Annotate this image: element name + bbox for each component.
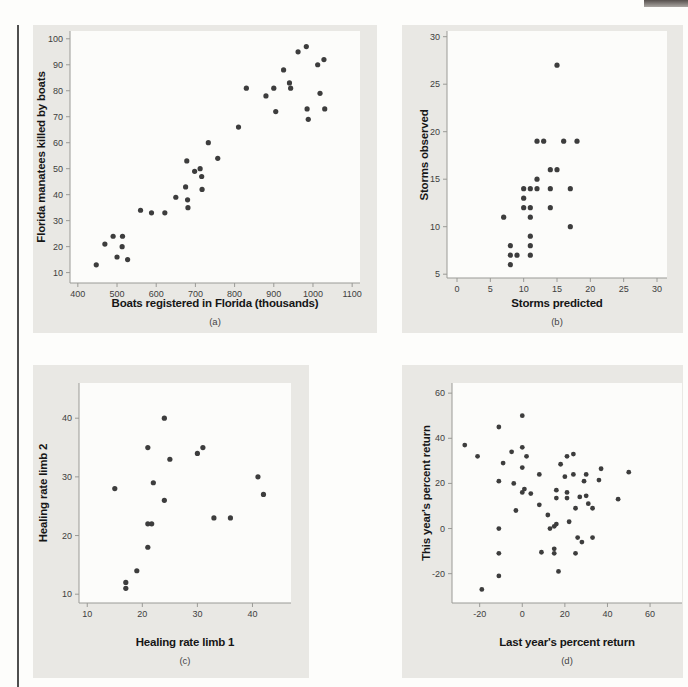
- svg-text:40: 40: [435, 433, 445, 443]
- x-axis-label-d: Last year's percent return: [452, 636, 682, 648]
- x-axis-label-b: Storms predicted: [447, 297, 667, 309]
- svg-text:0: 0: [520, 609, 525, 619]
- svg-text:30: 30: [62, 472, 72, 482]
- scatterplot-panel-a: 4005006007008009001000110010203040506070…: [33, 25, 377, 333]
- svg-text:-20: -20: [473, 609, 486, 619]
- svg-text:20: 20: [62, 531, 72, 541]
- svg-text:10: 10: [53, 268, 63, 278]
- scatter-chart-returns: -200204060-200204060: [402, 365, 683, 678]
- x-axis-label-a: Boats registered in Florida (thousands): [70, 297, 360, 309]
- svg-text:15: 15: [552, 284, 562, 294]
- scatterplot-panel-d: -200204060-200204060 This year's percent…: [402, 365, 683, 678]
- y-axis-label-b: Storms observed: [416, 25, 432, 285]
- svg-text:20: 20: [560, 609, 570, 619]
- page-corner-tab: [644, 0, 688, 7]
- svg-text:50: 50: [53, 164, 63, 174]
- svg-text:10: 10: [82, 609, 92, 619]
- svg-text:20: 20: [53, 242, 63, 252]
- scatter-chart-manatees: 4005006007008009001000110010203040506070…: [33, 25, 377, 333]
- svg-text:60: 60: [645, 609, 655, 619]
- svg-text:20: 20: [435, 478, 445, 488]
- scatter-chart-healing: 1020304010203040: [33, 365, 309, 678]
- y-axis-label-a: Florida manatees killed by boats: [33, 27, 49, 287]
- panel-caption-a: (a): [70, 316, 360, 327]
- svg-text:30: 30: [652, 284, 662, 294]
- svg-text:40: 40: [62, 413, 72, 423]
- svg-text:60: 60: [435, 388, 445, 398]
- svg-text:20: 20: [585, 284, 595, 294]
- svg-text:30: 30: [53, 216, 63, 226]
- svg-text:70: 70: [53, 112, 63, 122]
- panel-caption-c: (c): [79, 655, 291, 666]
- svg-text:40: 40: [602, 609, 612, 619]
- textbook-page: 4005006007008009001000110010203040506070…: [0, 0, 688, 687]
- svg-text:25: 25: [619, 284, 629, 294]
- scatter-chart-storms: 05101520253051015202530: [402, 25, 683, 333]
- svg-text:40: 40: [247, 609, 257, 619]
- page-margin-rule: [17, 25, 19, 687]
- svg-text:60: 60: [53, 138, 63, 148]
- svg-text:20: 20: [137, 609, 147, 619]
- svg-text:30: 30: [192, 609, 202, 619]
- svg-text:90: 90: [53, 60, 63, 70]
- y-axis-label-d: This year's percent return: [418, 363, 434, 623]
- scatterplot-panel-c: 1020304010203040 Healing rate limb 2 Hea…: [33, 365, 309, 678]
- x-axis-label-c: Healing rate limb 1: [79, 636, 291, 648]
- svg-text:80: 80: [53, 86, 63, 96]
- svg-text:0: 0: [440, 524, 445, 534]
- svg-text:10: 10: [519, 284, 529, 294]
- svg-text:0: 0: [454, 284, 459, 294]
- svg-text:10: 10: [62, 589, 72, 599]
- svg-text:5: 5: [488, 284, 493, 294]
- svg-text:5: 5: [435, 269, 440, 279]
- scatterplot-panel-b: 05101520253051015202530 Storms observed …: [402, 25, 683, 333]
- y-axis-label-c: Healing rate limb 2: [35, 363, 51, 623]
- svg-text:100: 100: [48, 34, 63, 44]
- panel-caption-b: (b): [447, 316, 667, 327]
- svg-text:40: 40: [53, 190, 63, 200]
- panel-caption-d: (d): [452, 655, 682, 666]
